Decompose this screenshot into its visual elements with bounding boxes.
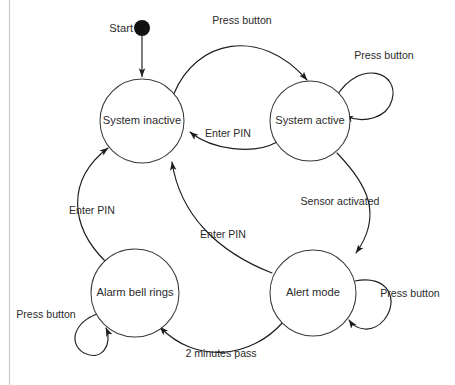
edge-label-alert-self-loop: Press button [380, 287, 440, 299]
state-label-system-inactive: System inactive [103, 114, 181, 126]
edge-label-active-self-loop: Press button [354, 49, 414, 61]
edge-label-alert-to-alarm: 2 minutes pass [185, 347, 256, 359]
start-node-dot [134, 20, 150, 36]
edge-label-alert-to-inactive: Enter PIN [200, 228, 246, 240]
state-label-alert-mode: Alert mode [286, 286, 340, 298]
edge-label-active-to-alert: Sensor activated [301, 195, 380, 207]
state-diagram: Start System inactive System active Alar… [0, 0, 455, 385]
state-label-alarm-bell-rings: Alarm bell rings [96, 286, 174, 298]
edge-inactive-to-active [174, 46, 307, 94]
edge-label-inactive-to-active: Press button [212, 14, 272, 26]
diagram-canvas: Start System inactive System active Alar… [0, 0, 455, 385]
state-label-system-active: System active [275, 114, 345, 126]
edge-alert-to-inactive [172, 162, 272, 273]
edge-label-alarm-to-inactive: Enter PIN [69, 204, 115, 216]
start-label: Start [109, 22, 134, 34]
edge-label-alarm-self-loop: Press button [16, 308, 76, 320]
edge-label-active-to-inactive: Enter PIN [205, 127, 251, 139]
